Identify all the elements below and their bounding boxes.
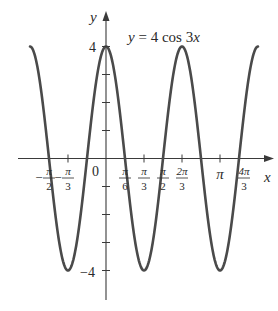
x-tick-label: 2π3 <box>176 165 188 192</box>
x-tick-numerator: π <box>141 165 147 177</box>
x-tick-denominator: 3 <box>179 180 185 192</box>
x-tick-denominator: 2 <box>46 180 52 192</box>
x-tick-denominator: 3 <box>241 180 247 192</box>
x-tick-numerator: π <box>160 165 166 177</box>
x-tick-text: π <box>216 166 224 182</box>
x-tick-numerator: 2π <box>176 165 188 177</box>
axes <box>18 11 274 300</box>
x-tick-label: π <box>216 166 224 182</box>
x-tick-numerator: π <box>65 165 71 177</box>
chart-title: y = 4 cos 3x <box>126 29 200 45</box>
y-max-label: 4 <box>89 40 96 55</box>
x-tick-label: π3− <box>54 165 74 192</box>
minus-sign: − <box>35 170 42 185</box>
x-axis-arrow-icon <box>264 155 274 162</box>
origin-label: 0 <box>92 164 99 179</box>
x-tick-denominator: 3 <box>65 180 71 192</box>
x-tick-numerator: π <box>122 165 128 177</box>
x-tick-denominator: 2 <box>160 180 166 192</box>
minus-sign: − <box>54 170 61 185</box>
x-tick-numerator: 4π <box>238 165 250 177</box>
x-tick-denominator: 6 <box>122 180 128 192</box>
x-tick-label: π3 <box>138 165 150 192</box>
y-axis-arrow-icon <box>103 11 110 21</box>
y-min-label: −4 <box>80 265 95 280</box>
x-tick-denominator: 3 <box>141 180 147 192</box>
x-axis-label: x <box>263 169 271 185</box>
title-rest: = 4 cos 3 <box>135 29 193 45</box>
cosine-plot: π2−π3−π6π3π22π3π4π3 y = 4 cos 3x y x 0 4… <box>0 0 278 311</box>
x-tick-numerator: π <box>46 165 52 177</box>
y-axis-label: y <box>88 9 97 25</box>
chart-root: π2−π3−π6π3π22π3π4π3 y = 4 cos 3x y x 0 4… <box>0 0 278 311</box>
x-tick-label: 4π3 <box>238 165 250 192</box>
